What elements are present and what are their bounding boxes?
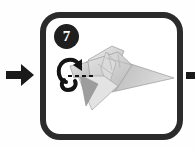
step-number-badge: 7 xyxy=(54,24,79,49)
origami-step-diagram: 7 xyxy=(0,0,195,149)
outgoing-step-arrow xyxy=(186,67,195,83)
incoming-step-arrow xyxy=(6,62,34,88)
step-panel: 7 xyxy=(40,12,183,140)
